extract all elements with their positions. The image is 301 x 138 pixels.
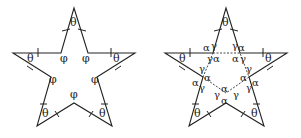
gamma-label: γ <box>233 89 239 100</box>
star-right: θ θ θ θ θ α γ γ α γ α α γ γ α α γ γ α α … <box>165 8 287 126</box>
alpha-label: α <box>221 83 228 94</box>
theta-label-bottom-left: θ <box>194 107 201 120</box>
alpha-label: α <box>213 53 220 64</box>
phi-label-left: φ <box>49 73 57 86</box>
star-left-ticks <box>27 29 121 117</box>
alpha-label: α <box>252 77 259 88</box>
gamma-label: γ <box>199 82 205 93</box>
phi-label-upper-left: φ <box>60 52 68 65</box>
phi-label-upper-right: φ <box>82 52 90 65</box>
alpha-label: α <box>204 72 211 83</box>
theta-label-right: θ <box>113 52 120 65</box>
theta-label-top: θ <box>70 16 77 29</box>
theta-label-left: θ <box>27 52 34 65</box>
alpha-label: α <box>221 95 228 106</box>
theta-label-right: θ <box>265 52 272 65</box>
alpha-label: α <box>238 42 245 53</box>
alpha-label: α <box>232 53 239 64</box>
star-angle-diagram: θ θ θ θ θ φ φ φ φ φ θ θ θ θ θ <box>0 0 301 138</box>
star-left: θ θ θ θ θ φ φ φ φ φ <box>13 8 135 126</box>
theta-label-bottom-left: θ <box>42 107 49 120</box>
alpha-label: α <box>203 42 210 53</box>
gamma-label: γ <box>246 63 252 74</box>
theta-label-left: θ <box>179 52 186 65</box>
phi-label-right: φ <box>91 73 99 86</box>
phi-label-bottom: φ <box>70 88 78 101</box>
theta-label-top: θ <box>222 16 229 29</box>
gamma-label: γ <box>214 89 220 100</box>
alpha-label: α <box>192 77 199 88</box>
theta-label-bottom-right: θ <box>251 107 258 120</box>
gamma-label: γ <box>211 40 217 51</box>
theta-label-bottom-right: θ <box>99 107 106 120</box>
gamma-label: γ <box>246 82 252 93</box>
